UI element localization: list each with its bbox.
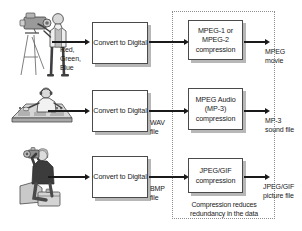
mpeg-compression-label: MPEG-1 or MPEG-2 compression [189, 26, 242, 54]
convert-to-digital-label-image: Convert to Digital [93, 172, 146, 181]
compression-group-caption: Compression reduces redundancy in the da… [174, 200, 274, 219]
jpeg-gif-compression-box[interactable]: JPEG/GIF compression [188, 158, 243, 193]
mp3-output-label: MP-3 sound file [265, 116, 302, 134]
mpeg-output-label: MPEG movie [265, 47, 302, 65]
wav-file-label: WAV file [150, 118, 178, 136]
convert-to-digital-label-audio: Convert to Digital [93, 106, 146, 115]
mpeg-audio-compression-label: MPEG Audio (MP-3) compression [189, 95, 242, 123]
convert-to-digital-box-image[interactable]: Convert to Digital [92, 156, 148, 198]
diagram-canvas: Red, Green, Blue Convert to Digital MPEG… [0, 0, 302, 231]
photographer-illustration [12, 142, 82, 218]
jpeg-gif-compression-label: JPEG/GIF compression [189, 166, 242, 185]
mpeg-audio-compression-box[interactable]: MPEG Audio (MP-3) compression [188, 88, 243, 130]
audio-engineer-mixing-console-illustration [10, 84, 82, 132]
mpeg-compression-box[interactable]: MPEG-1 or MPEG-2 compression [188, 20, 243, 60]
convert-to-digital-box-video[interactable]: Convert to Digital [92, 22, 148, 64]
convert-to-digital-box-audio[interactable]: Convert to Digital [92, 90, 148, 132]
jpeg-gif-output-label: JPEG/GIF picture file [263, 182, 302, 200]
convert-to-digital-label-video: Convert to Digital [93, 38, 146, 47]
video-source-label: Red, Green, Blue [60, 45, 94, 73]
